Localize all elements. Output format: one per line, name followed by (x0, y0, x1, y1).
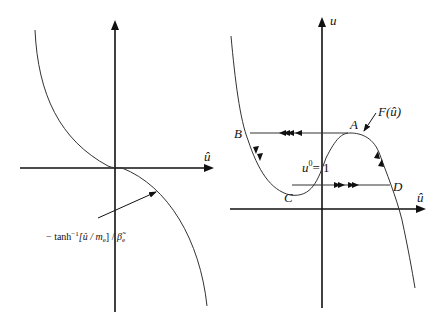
F-label-pointer-arrow (364, 113, 376, 131)
right-panel: u û F(û) A B C D u0= 1 (230, 13, 426, 308)
point-D-label: D (392, 179, 403, 194)
right-y-axis-label: u (330, 13, 337, 28)
tanh-curve-label: − tanh−1[û / me] / β̃e (46, 230, 126, 244)
curve-label-pointer-arrow (98, 192, 156, 218)
left-y-axis-arrow-icon (111, 20, 119, 30)
diagram-canvas: û − tanh−1[û / me] / β̃e u û (0, 0, 447, 322)
left-x-axis-arrow-icon (204, 164, 214, 172)
right-x-axis-arrow-icon (416, 205, 426, 213)
right-y-axis-arrow-icon (318, 17, 326, 27)
F-curve-label: F(û) (377, 104, 401, 119)
left-panel: û − tanh−1[û / me] / β̃e (20, 20, 214, 312)
equilibrium-label: u0= 1 (302, 159, 330, 175)
down-arrows-icon (253, 146, 263, 161)
left-arrows-icon (279, 130, 302, 136)
point-C-label: C (284, 190, 293, 205)
right-x-axis-label: û (417, 190, 424, 205)
point-B-label: B (234, 126, 242, 141)
point-A-label: A (349, 117, 358, 132)
left-x-axis-label: û (204, 149, 211, 164)
